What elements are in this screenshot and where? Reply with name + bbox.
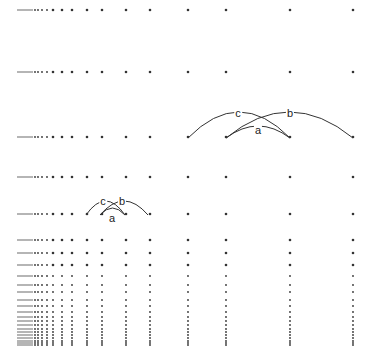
lattice-dot (86, 331, 88, 333)
lattice-dot (21, 342, 22, 343)
lattice-dot (61, 264, 64, 267)
lattice-dot (29, 316, 30, 317)
lattice-dot (21, 136, 22, 137)
lattice-dot (125, 299, 127, 301)
lattice-dot (29, 334, 30, 335)
lattice-dot (289, 213, 292, 216)
lattice-dot (149, 239, 152, 242)
lattice-dot (71, 305, 73, 307)
lattice-dot (34, 136, 36, 138)
lattice-dot (21, 275, 22, 276)
lattice-dot (125, 316, 127, 318)
lattice-dot (125, 252, 128, 255)
lattice-dot (31, 299, 32, 300)
lattice-dot (52, 71, 55, 74)
lattice-dot (46, 213, 48, 215)
lattice-dot (17, 324, 18, 325)
lattice-dot (46, 299, 48, 301)
lattice-dot (289, 334, 291, 336)
lattice-dot (149, 299, 151, 301)
lattice-dot (289, 71, 292, 74)
lattice-dot (71, 334, 73, 336)
lattice-dot (149, 275, 151, 277)
lattice-dot (125, 305, 127, 307)
lattice-dot (17, 176, 18, 177)
lattice-dot (71, 176, 74, 179)
lattice-dot (289, 342, 291, 344)
lattice-dot (149, 136, 152, 139)
lattice-dot (225, 291, 227, 293)
lattice-dot (27, 316, 28, 317)
lattice-dot (17, 9, 18, 10)
lattice-dot (23, 324, 24, 325)
lattice-dot (289, 9, 292, 12)
lattice-dot (19, 252, 20, 253)
lattice-dot (289, 311, 291, 313)
lattice-dot (19, 331, 20, 332)
lattice-dot (125, 9, 128, 12)
lattice-dot (19, 213, 20, 214)
lattice-dot (37, 176, 39, 178)
lattice-dot (289, 299, 291, 301)
lattice-dot (31, 328, 32, 329)
lattice-dot (61, 239, 64, 242)
lattice-dot (37, 337, 39, 339)
lattice-dot (31, 320, 32, 321)
lattice-dot (19, 71, 20, 72)
lattice-dot (225, 328, 227, 330)
lattice-dot (34, 252, 36, 254)
lattice-dot (352, 334, 354, 336)
lattice-dot (352, 311, 354, 313)
lattice-dot (101, 344, 103, 346)
arc-label-b: b (286, 108, 294, 119)
lattice-dot (23, 299, 24, 300)
lattice-dot (125, 291, 127, 293)
lattice-dot (25, 136, 26, 137)
lattice-dot (17, 320, 18, 321)
lattice-dot (37, 316, 39, 318)
lattice-dot (23, 239, 24, 240)
lattice-dot (61, 291, 63, 293)
lattice-dot (23, 291, 24, 292)
lattice-dot (352, 316, 354, 318)
lattice-dot (46, 284, 48, 286)
lattice-dot (29, 342, 30, 343)
lattice-dot (25, 311, 26, 312)
lattice-dot (46, 316, 48, 318)
lattice-dot (41, 344, 43, 346)
lattice-dot (27, 344, 28, 345)
lattice-dot (41, 340, 43, 342)
lattice-dot (23, 305, 24, 306)
lattice-dot (31, 239, 32, 240)
lattice-dot (71, 264, 74, 267)
lattice-dot (52, 213, 55, 216)
lattice-dot (27, 324, 28, 325)
lattice-dot (101, 340, 103, 342)
lattice-dot (52, 344, 54, 346)
lattice-dot (71, 342, 73, 344)
lattice-dot (149, 316, 151, 318)
lattice-dot (34, 291, 36, 293)
lattice-dot (52, 305, 54, 307)
lattice-dot (19, 299, 20, 300)
lattice-dot (19, 275, 20, 276)
lattice-dot (61, 340, 63, 342)
lattice-dot (34, 344, 36, 346)
lattice-dot (31, 311, 32, 312)
lattice-dot (29, 291, 30, 292)
lattice-dot (27, 320, 28, 321)
lattice-dot (19, 9, 20, 10)
lattice-dot (19, 311, 20, 312)
lattice-dot (23, 71, 24, 72)
lattice-dot (34, 320, 36, 322)
lattice-dot (46, 275, 48, 277)
lattice-dot (25, 316, 26, 317)
lattice-dot (37, 239, 39, 241)
lattice-dot (41, 316, 43, 318)
lattice-dot (37, 305, 39, 307)
lattice-dot (37, 320, 39, 322)
lattice-dot (289, 239, 292, 242)
lattice-dot (71, 340, 73, 342)
lattice-dot (101, 342, 103, 344)
lattice-dot (52, 340, 54, 342)
